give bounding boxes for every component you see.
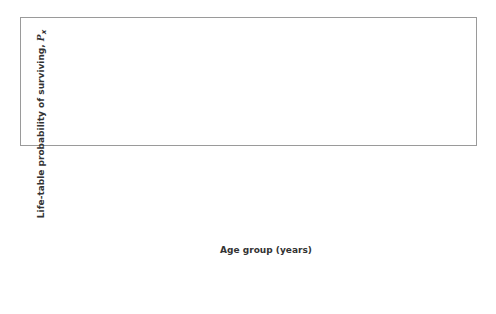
x-axis-title: Age group (years) bbox=[220, 245, 312, 255]
survival-chart: Life-table probability of surviving, Px … bbox=[0, 0, 496, 314]
chart-outer-frame bbox=[21, 18, 477, 146]
chart-outer-border bbox=[21, 18, 238, 145]
chart-frame bbox=[21, 18, 237, 146]
y-axis-title-text: Life-table probability of surviving, bbox=[36, 41, 46, 218]
y-axis-title: Life-table probability of surviving, Px bbox=[36, 29, 48, 218]
